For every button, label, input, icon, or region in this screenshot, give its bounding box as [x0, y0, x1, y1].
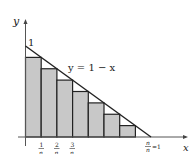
y-intercept-label: 1 [28, 37, 34, 48]
y-axis-arrow-icon [24, 19, 28, 24]
tick-end: n n =1 [145, 139, 161, 153]
bar-2 [41, 69, 57, 137]
svg-text:n: n [146, 139, 150, 146]
svg-text:1: 1 [40, 141, 44, 148]
bar-5 [88, 103, 104, 137]
svg-text:n: n [55, 149, 59, 154]
bar-3 [57, 80, 73, 137]
x-axis-arrow-icon [183, 135, 188, 139]
svg-text:n: n [146, 146, 150, 153]
tick-1: 1 n [39, 141, 45, 154]
svg-text:3: 3 [71, 141, 75, 148]
bar-1 [26, 57, 42, 137]
bar-7 [120, 126, 136, 137]
tick-3: 3 n [70, 141, 76, 154]
tick-2: 2 n [54, 141, 60, 154]
svg-text:n: n [70, 149, 74, 154]
bar-4 [73, 92, 89, 138]
riemann-sum-diagram: y x 1 y = 1 − x 1 n 2 n 3 n n n =1 [0, 0, 196, 154]
x-axis-label: x [183, 142, 189, 153]
y-axis-label: y [12, 15, 20, 28]
svg-text:=1: =1 [152, 143, 161, 150]
bar-6 [104, 114, 120, 137]
svg-text:n: n [39, 149, 43, 154]
curve-label: y = 1 − x [67, 62, 115, 73]
svg-text:2: 2 [55, 141, 59, 148]
